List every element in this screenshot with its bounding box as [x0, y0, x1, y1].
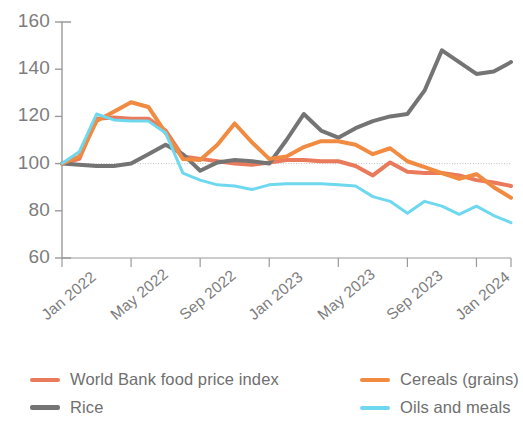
legend-label: Oils and meals — [400, 398, 511, 417]
series-line-1 — [62, 50, 511, 170]
legend-color-swatch — [30, 378, 60, 382]
legend-color-swatch — [360, 378, 390, 382]
legend-label: Rice — [70, 398, 103, 417]
legend-label: World Bank food price index — [70, 370, 279, 389]
y-axis-label: 100 — [6, 152, 50, 174]
legend-color-swatch — [360, 406, 390, 410]
series-line-3 — [62, 114, 511, 223]
line-chart: 1601401201008060 Jan 2022May 2022Sep 202… — [0, 0, 523, 421]
y-axis-label: 60 — [6, 246, 50, 268]
chart-legend: World Bank food price indexCereals (grai… — [0, 366, 523, 421]
legend-item[interactable]: Oils and meals — [360, 398, 511, 417]
legend-label: Cereals (grains) — [400, 370, 519, 389]
series-layer — [62, 50, 511, 222]
legend-color-swatch — [30, 405, 60, 410]
y-axis-label: 120 — [6, 104, 50, 126]
y-axis-label: 140 — [6, 57, 50, 79]
y-axis-label: 160 — [6, 10, 50, 32]
legend-item[interactable]: World Bank food price index — [30, 370, 279, 389]
series-line-0 — [62, 118, 511, 186]
chart-plot-area — [0, 0, 523, 421]
legend-item[interactable]: Rice — [30, 398, 103, 417]
legend-item[interactable]: Cereals (grains) — [360, 370, 519, 389]
y-axis-spine — [62, 22, 71, 258]
y-axis-label: 80 — [6, 199, 50, 221]
